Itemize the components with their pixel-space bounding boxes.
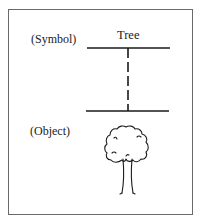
tree-icon <box>105 126 149 194</box>
symbol-object-diagram <box>0 0 197 221</box>
